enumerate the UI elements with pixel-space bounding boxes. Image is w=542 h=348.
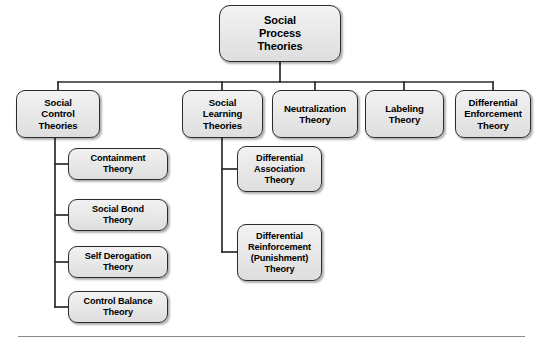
node-label: Control Balance Theory xyxy=(72,296,164,318)
node-self-derogation-theory[interactable]: Self Derogation Theory xyxy=(68,246,168,278)
bottom-divider xyxy=(18,336,525,337)
node-label: Self Derogation Theory xyxy=(72,251,164,273)
node-differential-reinforcement-theory[interactable]: Differential Reinforcement (Punishment) … xyxy=(237,224,322,281)
node-label: Differential Association Theory xyxy=(241,153,318,186)
node-label: Social Learning Theories xyxy=(186,97,259,132)
node-differential-association-theory[interactable]: Differential Association Theory xyxy=(237,146,322,192)
diagram-canvas: Social Process Theories Social Control T… xyxy=(0,0,542,348)
node-label: Social Process Theories xyxy=(223,14,337,53)
node-label: Social Bond Theory xyxy=(72,204,164,226)
node-label: Containment Theory xyxy=(72,153,164,175)
node-social-control-theories[interactable]: Social Control Theories xyxy=(16,90,100,138)
node-social-process-theories[interactable]: Social Process Theories xyxy=(219,5,341,62)
node-social-bond-theory[interactable]: Social Bond Theory xyxy=(68,199,168,231)
node-label: Differential Enforcement Theory xyxy=(459,97,527,132)
node-social-learning-theories[interactable]: Social Learning Theories xyxy=(182,90,263,138)
node-control-balance-theory[interactable]: Control Balance Theory xyxy=(68,291,168,323)
node-containment-theory[interactable]: Containment Theory xyxy=(68,148,168,180)
node-labeling-theory[interactable]: Labeling Theory xyxy=(365,90,444,138)
node-differential-enforcement-theory[interactable]: Differential Enforcement Theory xyxy=(455,90,531,138)
node-label: Labeling Theory xyxy=(369,103,440,126)
node-neutralization-theory[interactable]: Neutralization Theory xyxy=(272,90,358,138)
node-label: Differential Reinforcement (Punishment) … xyxy=(241,231,318,275)
node-label: Neutralization Theory xyxy=(276,103,354,126)
node-label: Social Control Theories xyxy=(20,97,96,132)
